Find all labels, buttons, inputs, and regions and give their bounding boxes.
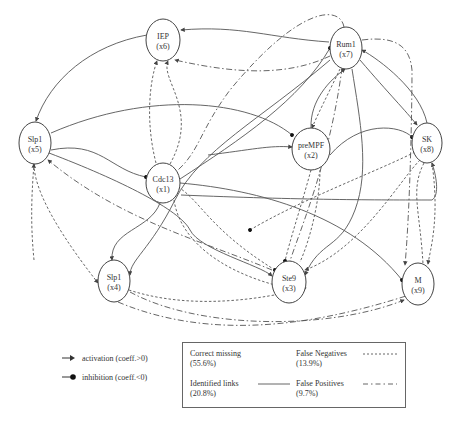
- edge-identified: [181, 29, 329, 42]
- node-sub: (x9): [411, 286, 425, 295]
- node-x1: Cdc13(x1): [146, 163, 180, 203]
- edge-fn: [417, 163, 424, 264]
- node-name: Slp1: [28, 135, 43, 144]
- legend-false-negatives: False Negatives (13.9%): [296, 349, 347, 369]
- activation-label: activation (coeff.>0): [82, 354, 148, 363]
- node-name: IEP: [157, 32, 170, 41]
- node-x2: preMPF(x2): [292, 128, 330, 170]
- legend-false-positives: False Positives (9.7%): [296, 379, 344, 399]
- legend-name: False Negatives: [296, 349, 347, 359]
- node-name: Slp1: [107, 273, 122, 282]
- edge-fn: [285, 170, 311, 261]
- nodes-layer: Cdc13(x1)preMPF(x2)Ste9(x3)Slp1(x4)Slp1(…: [19, 19, 442, 305]
- edge-fp: [130, 292, 404, 322]
- node-x3: Ste9(x3): [272, 261, 306, 303]
- edge-identified: [362, 50, 427, 123]
- edge-fn: [150, 61, 157, 163]
- legend-pct: (13.9%): [296, 359, 347, 369]
- solid-line-icon: [258, 381, 290, 387]
- legend-activation: activation (coeff.>0): [60, 352, 148, 364]
- inhibition-dot-icon: [60, 373, 78, 381]
- edges-layer: [32, 15, 437, 326]
- legend-name: Identified links: [190, 379, 239, 389]
- edge-fn: [312, 69, 340, 128]
- legend-pct: (55.6%): [190, 359, 241, 369]
- edge-identified: [305, 69, 363, 275]
- node-sub: (x2): [304, 151, 318, 160]
- arrow-legend: activation (coeff.>0) inhibition (coeff.…: [60, 352, 148, 390]
- node-x4: Slp1(x4): [98, 260, 130, 302]
- edge-fn: [34, 164, 98, 283]
- inhibition-label: inhibition (coeff.<0): [82, 373, 147, 382]
- link-type-legend: Correct missing (55.6%) False Negatives …: [182, 342, 406, 408]
- legend-name: False Positives: [296, 379, 344, 389]
- edge-fn: [174, 200, 275, 285]
- node-x9: M(x9): [402, 263, 434, 305]
- edge-fn: [167, 61, 181, 164]
- legend-correct-missing: Correct missing (55.6%): [190, 349, 241, 369]
- node-name: preMPF: [298, 141, 325, 150]
- edge-identified: [208, 147, 292, 155]
- node-sub: (x8): [420, 145, 434, 154]
- node-name: Cdc13: [153, 175, 174, 184]
- edge-identified: [360, 60, 417, 125]
- node-name: Ste9: [282, 274, 296, 283]
- edge-identified: [51, 105, 292, 135]
- node-x5: Slp1(x5): [19, 122, 51, 164]
- dotted-line-icon: [363, 351, 397, 357]
- legend-inhibition: inhibition (coeff.<0): [60, 371, 148, 383]
- node-sub: (x4): [107, 283, 121, 292]
- edge-fp: [175, 56, 330, 71]
- node-x6: IEP(x6): [146, 19, 180, 61]
- node-name: SK: [422, 135, 432, 144]
- edge-fn: [178, 187, 275, 270]
- node-name: M: [414, 276, 421, 285]
- legend-pct: (20.8%): [190, 389, 239, 399]
- edge-identified: [330, 128, 412, 155]
- node-sub: (x7): [339, 50, 353, 59]
- edge-fp: [118, 296, 406, 325]
- node-name: Rum1: [336, 40, 356, 49]
- node-x8: SK(x8): [412, 123, 442, 163]
- edge-identified: [36, 35, 147, 121]
- edge-fn: [250, 152, 415, 230]
- activation-arrow-icon: [60, 354, 78, 362]
- node-sub: (x5): [28, 145, 42, 154]
- edge-fn: [428, 163, 435, 264]
- edge-fn: [32, 164, 34, 260]
- node-sub: (x6): [156, 42, 170, 51]
- dash-dot-line-icon: [363, 381, 397, 387]
- edge-identified: [112, 203, 160, 260]
- network-diagram: Cdc13(x1)preMPF(x2)Ste9(x3)Slp1(x4)Slp1(…: [0, 0, 461, 340]
- node-sub: (x1): [156, 185, 170, 194]
- edge-fp: [362, 39, 412, 265]
- node-x7: Rum1(x7): [330, 27, 362, 69]
- node-sub: (x3): [282, 284, 296, 293]
- legend-name: Correct missing: [190, 349, 241, 359]
- legend-pct: (9.7%): [296, 389, 344, 399]
- legend-identified-links: Identified links (20.8%): [190, 379, 239, 399]
